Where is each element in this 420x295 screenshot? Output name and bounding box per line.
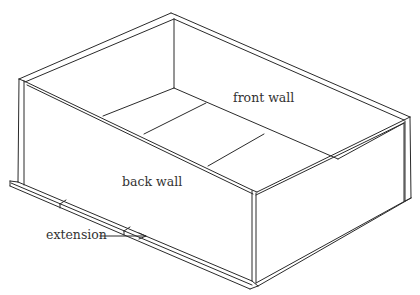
right-post [404,117,411,201]
extension-label: extension [46,227,107,242]
back-wall-label: back wall [122,174,182,189]
box-drawing: front wall back wall extension [0,0,420,295]
right-bottom-edge [256,198,411,286]
right-front-top-rim [256,120,404,195]
box-diagram: front wall back wall extension [0,0,420,295]
front-wall-label: front wall [233,90,294,105]
back-top-rim [19,13,176,82]
front-corner-post [252,190,257,283]
left-post [18,79,24,185]
